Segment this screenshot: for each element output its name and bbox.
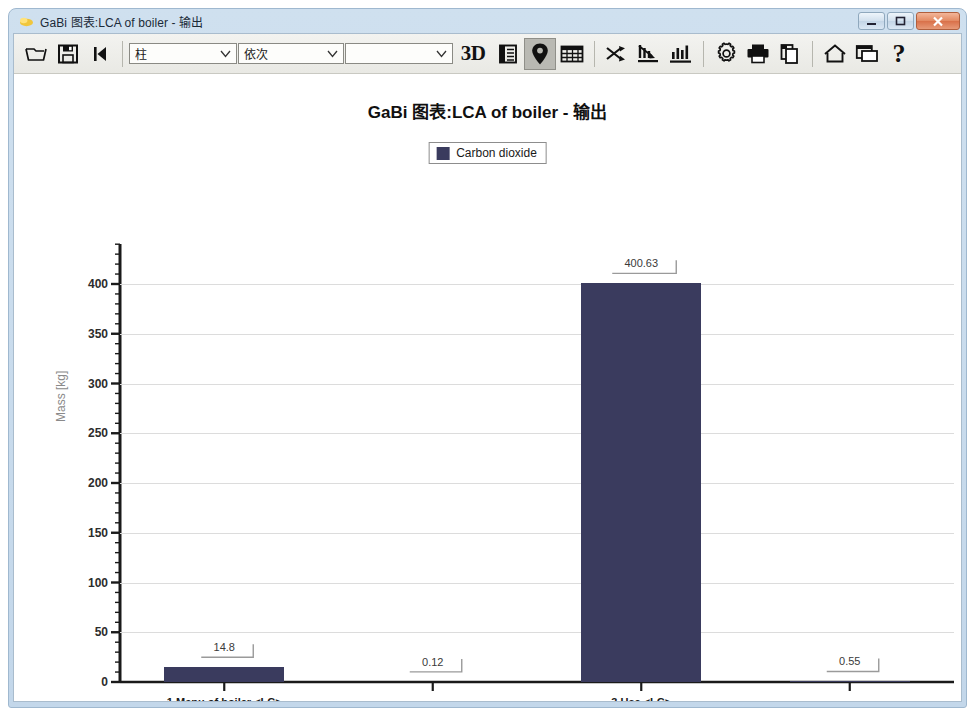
descending-bars-icon: [637, 43, 661, 65]
gear-icon: [715, 42, 738, 65]
bar-chart-icon: [669, 43, 693, 65]
chart-type-value: 柱: [130, 45, 147, 62]
bar-chart-button[interactable]: [665, 38, 697, 70]
maximize-button[interactable]: [887, 12, 914, 30]
shuffle-icon: [605, 44, 629, 64]
gridline: [120, 583, 954, 584]
legend-table-button[interactable]: [492, 38, 524, 70]
home-icon: [823, 43, 847, 64]
toolbar: 柱 依次 3D: [14, 34, 961, 74]
close-button[interactable]: [916, 12, 960, 30]
printer-icon: [746, 43, 770, 64]
open-folder-icon[interactable]: [20, 38, 52, 70]
chevron-down-icon: [436, 50, 447, 58]
chevron-down-icon: [327, 50, 338, 58]
toolbar-separator: [703, 41, 704, 67]
bar-value-label: 0.55: [839, 655, 860, 667]
window-client-area: 柱 依次 3D: [13, 33, 962, 702]
axis-lines: [14, 74, 961, 701]
application-window: GaBi 图表:LCA of boiler - 输出: [8, 8, 967, 708]
gridline: [120, 384, 954, 385]
help-label: ?: [893, 39, 906, 69]
window-title: GaBi 图表:LCA of boiler - 输出: [40, 13, 203, 30]
window-button[interactable]: [851, 38, 883, 70]
y-axis-tick-label: 0: [66, 675, 108, 689]
y-axis-tick-label: 400: [66, 277, 108, 291]
3d-label: 3D: [461, 41, 486, 66]
bar[interactable]: [164, 667, 284, 682]
gridline: [120, 533, 954, 534]
descending-chart-button[interactable]: [633, 38, 665, 70]
map-pin-button[interactable]: [524, 38, 556, 70]
y-axis-tick-label: 50: [66, 625, 108, 639]
ordering-value: 依次: [239, 45, 268, 62]
map-pin-icon: [531, 42, 549, 66]
ordering-select[interactable]: 依次: [238, 43, 344, 64]
skip-to-start-icon[interactable]: [84, 38, 116, 70]
y-axis-tick-label: 150: [66, 526, 108, 540]
settings-button[interactable]: [710, 38, 742, 70]
gridline: [120, 433, 954, 434]
x-axis-tick-label: 1.Manu of boiler <LC>: [167, 696, 282, 701]
window-controls: [858, 12, 960, 30]
home-button[interactable]: [819, 38, 851, 70]
save-disk-icon[interactable]: [52, 38, 84, 70]
bar-value-label: 0.12: [422, 656, 443, 668]
grid-table-button[interactable]: [556, 38, 588, 70]
plot-area: Mass [kg] 05010015020025030035040014.81.…: [14, 74, 961, 701]
chevron-down-icon: [220, 50, 231, 58]
toolbar-separator: [812, 41, 813, 67]
gridline: [120, 334, 954, 335]
grid-icon: [560, 44, 584, 64]
chart-type-select[interactable]: 柱: [129, 43, 237, 64]
print-button[interactable]: [742, 38, 774, 70]
bar-value-label: 14.8: [214, 641, 235, 653]
y-axis-tick-label: 200: [66, 476, 108, 490]
y-axis-tick-label: 300: [66, 377, 108, 391]
y-axis-tick-label: 100: [66, 576, 108, 590]
bar-value-label: 400.63: [624, 257, 658, 269]
bar[interactable]: [790, 681, 910, 682]
y-axis-tick-label: 250: [66, 426, 108, 440]
gridline: [120, 483, 954, 484]
title-bar: GaBi 图表:LCA of boiler - 输出: [9, 9, 966, 34]
toolbar-separator: [594, 41, 595, 67]
gabi-app-icon: [19, 15, 34, 28]
filter-select[interactable]: [345, 43, 453, 64]
x-axis-tick-label: 3.Use <LC>: [611, 696, 671, 701]
help-button[interactable]: ?: [883, 38, 915, 70]
y-axis-tick-label: 350: [66, 327, 108, 341]
bar[interactable]: [581, 283, 701, 682]
toolbar-separator: [122, 41, 123, 67]
gridline: [120, 284, 954, 285]
gridline: [120, 632, 954, 633]
3d-view-button[interactable]: 3D: [454, 38, 492, 70]
minimize-button[interactable]: [858, 12, 885, 30]
window-icon: [855, 43, 879, 64]
swap-axes-button[interactable]: [601, 38, 633, 70]
copy-button[interactable]: [774, 38, 806, 70]
chart-canvas: GaBi 图表:LCA of boiler - 输出 Carbon dioxid…: [14, 74, 961, 701]
copy-pages-icon: [779, 43, 801, 65]
